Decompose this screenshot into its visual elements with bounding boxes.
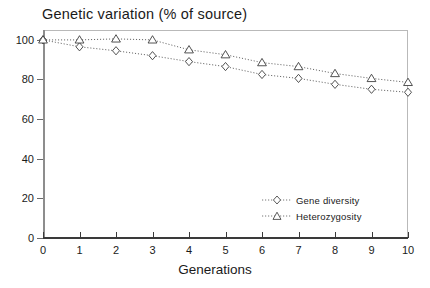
data-point [222, 62, 229, 70]
data-point [112, 35, 121, 42]
data-point [404, 88, 411, 96]
series-gene-diversity [39, 36, 411, 97]
data-point [76, 43, 83, 51]
legend-label-heterozygosity: Heterozygosity [296, 211, 362, 222]
data-point [75, 36, 84, 43]
data-point [404, 78, 413, 85]
chart-container: Genetic variation (% of source) 02040608… [0, 0, 430, 288]
legend-label-gene-diversity: Gene diversity [296, 195, 360, 206]
data-point [368, 85, 375, 93]
data-point [295, 74, 302, 82]
data-point [258, 58, 267, 65]
legend-marker-diamond-icon [262, 193, 292, 207]
chart-legend: Gene diversity Heterozygosity [262, 192, 362, 224]
data-point [112, 47, 119, 55]
data-point [331, 69, 340, 76]
data-point [148, 36, 157, 43]
series-layer [0, 0, 430, 288]
series-heterozygosity [39, 35, 413, 86]
legend-item-heterozygosity: Heterozygosity [262, 208, 362, 224]
data-point [185, 58, 192, 66]
data-point [331, 80, 338, 88]
legend-marker-triangle-icon [262, 209, 292, 223]
data-point [258, 70, 265, 78]
data-point [149, 52, 156, 60]
data-point [367, 74, 376, 81]
legend-item-gene-diversity: Gene diversity [262, 192, 362, 208]
x-axis-title: Generations [0, 262, 430, 277]
